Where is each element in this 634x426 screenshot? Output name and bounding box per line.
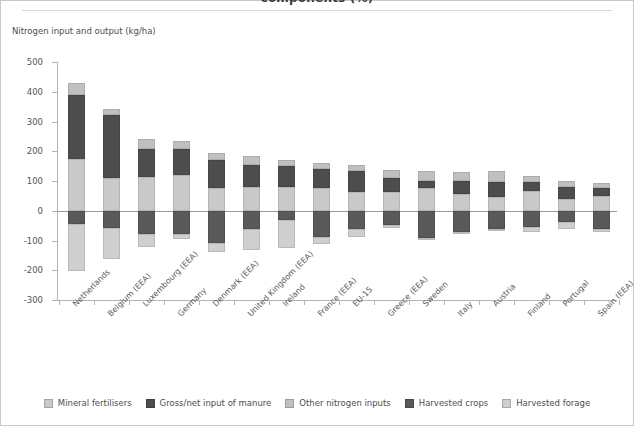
bar-segment: [313, 188, 329, 211]
legend-label: Mineral fertilisers: [58, 398, 132, 408]
bar-segment: [313, 163, 329, 169]
bar-group[interactable]: [523, 62, 539, 300]
bar-segment: [488, 197, 504, 210]
title-divider: [22, 10, 612, 11]
legend-swatch-icon: [405, 399, 414, 408]
legend-item[interactable]: Gross/net input of manure: [146, 398, 272, 408]
bar-segment: [523, 227, 539, 232]
bar-segment: [348, 211, 364, 229]
chart-legend: Mineral fertilisersGross/net input of ma…: [0, 398, 634, 408]
bar-segment: [278, 211, 294, 221]
bar-segment: [68, 211, 84, 225]
legend-swatch-icon: [285, 399, 294, 408]
bar-group[interactable]: [138, 62, 154, 300]
bar-segment: [453, 194, 469, 210]
legend-item[interactable]: Harvested crops: [405, 398, 488, 408]
bar-segment: [278, 220, 294, 247]
bar-segment: [523, 191, 539, 211]
bar-segment: [383, 170, 399, 178]
legend-swatch-icon: [146, 399, 155, 408]
bar-segment: [453, 232, 469, 234]
bar-segment: [243, 156, 259, 164]
bar-segment: [488, 211, 504, 229]
legend-swatch-icon: [502, 399, 511, 408]
bar-segment: [138, 149, 154, 178]
bar-segment: [558, 181, 574, 187]
legend-label: Harvested forage: [516, 398, 590, 408]
bar-segment: [243, 229, 259, 250]
bar-segment: [523, 182, 539, 191]
bar-segment: [173, 175, 189, 211]
bar-segment: [208, 188, 224, 211]
bar-segment: [418, 188, 434, 211]
bar-segment: [453, 211, 469, 232]
legend-swatch-icon: [44, 399, 53, 408]
bar-group[interactable]: [383, 62, 399, 300]
bar-segment: [348, 165, 364, 172]
bar-group[interactable]: [488, 62, 504, 300]
bar-segment: [383, 211, 399, 226]
bar-segment: [68, 95, 84, 158]
bar-segment: [418, 171, 434, 181]
bar-segment: [138, 177, 154, 211]
bar-group[interactable]: [453, 62, 469, 300]
bar-segment: [173, 141, 189, 149]
bar-group[interactable]: [208, 62, 224, 300]
legend-label: Harvested crops: [419, 398, 488, 408]
legend-item[interactable]: Other nitrogen inputs: [285, 398, 390, 408]
bar-segment: [208, 160, 224, 187]
bar-segment: [173, 211, 189, 234]
bar-segment: [488, 171, 504, 182]
bar-segment: [523, 176, 539, 182]
bar-group[interactable]: [103, 62, 119, 300]
bar-segment: [418, 238, 434, 240]
bar-series-group: [57, 62, 617, 300]
bar-segment: [488, 182, 504, 197]
bar-group[interactable]: [313, 62, 329, 300]
bar-segment: [558, 187, 574, 199]
bar-segment: [453, 181, 469, 194]
y-tick-label-400: 400: [27, 87, 43, 97]
bar-segment: [278, 187, 294, 211]
y-tick-label-300: 300: [27, 117, 43, 127]
bar-segment: [278, 160, 294, 165]
bar-segment: [348, 192, 364, 211]
bar-segment: [313, 211, 329, 237]
legend-item[interactable]: Harvested forage: [502, 398, 590, 408]
y-tick-label--200: -200: [24, 265, 43, 275]
bar-segment: [103, 178, 119, 211]
legend-item[interactable]: Mineral fertilisers: [44, 398, 132, 408]
legend-label: Gross/net input of manure: [160, 398, 272, 408]
bar-segment: [383, 192, 399, 210]
chart-title-clipped: components (%): [0, 0, 634, 7]
y-tick-label-0: 0: [38, 206, 43, 216]
bar-segment: [488, 229, 504, 231]
bar-segment: [558, 222, 574, 229]
bar-group[interactable]: [558, 62, 574, 300]
y-tick-label-500: 500: [27, 57, 43, 67]
bar-group[interactable]: [68, 62, 84, 300]
bar-segment: [558, 199, 574, 211]
bar-segment: [418, 211, 434, 238]
x-axis-category-labels: NetherlandsBelgium (EEA)Luxembourg (EEA)…: [57, 300, 617, 366]
bar-segment: [68, 224, 84, 271]
bar-segment: [348, 171, 364, 192]
bar-segment: [138, 211, 154, 234]
plot-area: 5004003002001000-100-200-300: [57, 62, 617, 300]
bar-segment: [103, 211, 119, 228]
bar-segment: [313, 169, 329, 187]
bar-segment: [243, 211, 259, 229]
legend-label: Other nitrogen inputs: [299, 398, 390, 408]
chart-subtitle-axis-label: Nitrogen input and output (kg/ha): [12, 26, 156, 36]
bar-group[interactable]: [348, 62, 364, 300]
y-tick-label--100: -100: [24, 236, 43, 246]
bar-segment: [593, 183, 609, 187]
y-tick-label-100: 100: [27, 176, 43, 186]
bar-segment: [103, 228, 119, 259]
bar-segment: [593, 196, 609, 210]
bar-segment: [348, 229, 364, 236]
bar-group[interactable]: [593, 62, 609, 300]
bar-segment: [453, 172, 469, 181]
bar-segment: [243, 187, 259, 211]
bar-group[interactable]: [418, 62, 434, 300]
